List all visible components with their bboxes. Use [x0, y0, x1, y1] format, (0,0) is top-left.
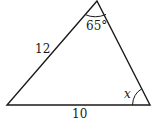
apex-angle-label: 65°: [86, 19, 107, 33]
triangle-diagram: 65° x 12 10: [0, 0, 157, 140]
apex-angle-arc: [85, 15, 106, 17]
bottom-side-label: 10: [72, 107, 87, 121]
bottom-right-angle-arc: [133, 89, 142, 105]
bottom-right-angle-label: x: [124, 87, 131, 101]
left-side-label: 12: [35, 42, 50, 56]
